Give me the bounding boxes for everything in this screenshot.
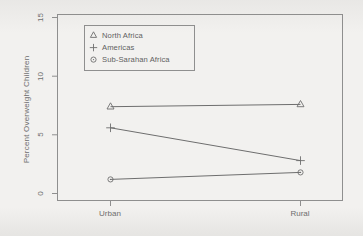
y-tick-label-0: 0: [36, 184, 45, 204]
series-americas: [106, 124, 305, 165]
series-north-africa: [107, 101, 304, 110]
plus-marker: [296, 156, 305, 165]
legend-label-north-africa: North Africa: [102, 31, 143, 40]
circle-marker-dot: [110, 179, 111, 180]
series-americas-line: [111, 128, 301, 161]
interaction-plot: [0, 0, 363, 236]
plus-marker: [106, 124, 115, 133]
y-tick-label-15: 15: [36, 8, 45, 28]
series-sub-sarahan-africa-line: [111, 172, 301, 179]
x-tick-label-rural: Rural: [277, 209, 323, 218]
triangle-marker: [297, 101, 304, 107]
y-axis-ticks: [52, 18, 58, 194]
chart-screenshot: Percent Overweight Children 15 10 5 0 Ur…: [0, 0, 363, 236]
circle-marker-dot: [300, 172, 301, 173]
legend-label-americas: Americas: [102, 43, 134, 52]
y-axis-title: Percent Overweight Children: [22, 30, 31, 190]
legend-label-sub-sarahan-africa: Sub-Sarahan Africa: [102, 55, 170, 64]
series-sub-sarahan-africa: [108, 170, 303, 182]
series-north-africa-line: [111, 104, 301, 106]
y-tick-label-5: 5: [36, 125, 45, 145]
y-tick-label-10: 10: [36, 67, 45, 87]
x-tick-label-urban: Urban: [87, 209, 133, 218]
triangle-marker: [107, 103, 114, 109]
x-axis-ticks: [111, 201, 301, 207]
